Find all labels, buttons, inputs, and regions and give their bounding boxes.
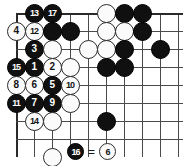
- stone-move-number: 10: [66, 80, 74, 89]
- stone-move-number: 15: [12, 62, 20, 71]
- stone-move-number: 13: [30, 8, 38, 17]
- caption-stone-black-16: 16: [67, 143, 84, 160]
- stone-black: [115, 40, 134, 59]
- stone-black: [115, 4, 134, 23]
- stone-white: [61, 94, 80, 113]
- stone-move-number: 6: [31, 80, 36, 90]
- grid-line-horizontal: [16, 139, 183, 140]
- stone-black: [97, 58, 116, 77]
- stone-black: [133, 22, 152, 41]
- stone-move-number: 8: [13, 80, 18, 90]
- stone-white-8: 8: [7, 76, 26, 95]
- stone-black: [97, 112, 116, 131]
- stone-white: [43, 112, 62, 131]
- stone-move-number: 5: [49, 80, 54, 90]
- caption-equals: =: [88, 145, 95, 159]
- stone-white-14: 14: [25, 112, 44, 131]
- stone-white-2: 2: [43, 58, 62, 77]
- stone-black: [151, 40, 170, 59]
- stone-white-12: 12: [25, 22, 44, 41]
- stone-move-number: 9: [49, 98, 54, 108]
- stone-black-5: 5: [43, 76, 62, 95]
- stone-black: [115, 58, 134, 77]
- stone-move-number: 2: [49, 62, 54, 72]
- stone-white: [43, 40, 62, 59]
- stone-black: [43, 22, 62, 41]
- stone-black-15: 15: [7, 58, 26, 77]
- stone-move-number: 4: [13, 26, 18, 36]
- stone-white-4: 4: [7, 22, 26, 41]
- stone-black-9: 9: [43, 94, 62, 113]
- stone-white: [61, 58, 80, 77]
- stone-white: [97, 22, 116, 41]
- stone-black-3: 3: [25, 40, 44, 59]
- stone-black-1: 1: [25, 58, 44, 77]
- stone-black-17: 17: [43, 4, 62, 23]
- stone-move-number: 11: [12, 98, 20, 107]
- stone-move-number: 3: [31, 44, 36, 54]
- stone-white: [79, 40, 98, 59]
- stone-move-number: 17: [48, 8, 56, 17]
- stone-move-number: 1: [31, 62, 36, 72]
- go-board: 13174123151286510117914: [0, 0, 183, 166]
- stone-white-6: 6: [25, 76, 44, 95]
- stone-black-11: 11: [7, 94, 26, 113]
- diagram-caption: 16 = 6: [0, 143, 183, 160]
- stone-move-number: 7: [31, 98, 36, 108]
- stone-black: [133, 4, 152, 23]
- caption-stone-white-6: 6: [99, 143, 116, 160]
- stone-white: [97, 40, 116, 59]
- stone-black-7: 7: [25, 94, 44, 113]
- stone-move-number: 14: [30, 116, 38, 125]
- stone-black-13: 13: [25, 4, 44, 23]
- stone-move-number: 12: [30, 26, 38, 35]
- stone-black: [61, 22, 80, 41]
- stone-white: [115, 22, 134, 41]
- stone-white-10: 10: [61, 76, 80, 95]
- stone-white: [97, 4, 116, 23]
